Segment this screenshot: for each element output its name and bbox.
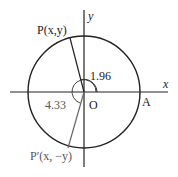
x-axis-label: x xyxy=(162,77,169,91)
y-axis-label: y xyxy=(87,9,94,23)
unit-circle-diagram: x y P(x,y) 1.96 4.33 O A P′(x, −y) xyxy=(0,0,178,177)
angle-2-label: 4.33 xyxy=(45,98,66,112)
radius-op xyxy=(70,38,84,92)
angle-1-label: 1.96 xyxy=(90,69,111,83)
point-a-label: A xyxy=(142,95,151,109)
point-p-label: P(x,y) xyxy=(37,23,67,37)
point-p-prime-label: P′(x, −y) xyxy=(30,149,72,163)
origin-label: O xyxy=(89,98,98,112)
